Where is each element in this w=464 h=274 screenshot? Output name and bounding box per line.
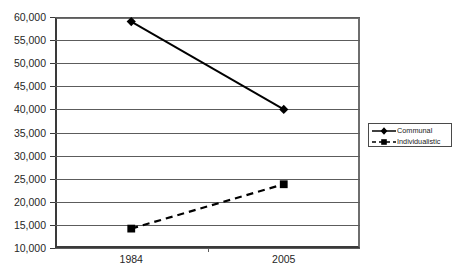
gridline <box>55 225 360 226</box>
chart-legend: Communal Individualistic <box>368 123 452 147</box>
y-axis-label: 40,000 <box>0 104 46 115</box>
gridline <box>55 202 360 203</box>
y-axis-label: 60,000 <box>0 12 46 23</box>
y-axis-tick <box>50 63 55 64</box>
legend-item-communal: Communal <box>371 126 451 136</box>
x-axis-label: 2005 <box>254 254 314 265</box>
y-axis-label: 30,000 <box>0 151 46 162</box>
y-axis-label: 35,000 <box>0 128 46 139</box>
diamond-marker-icon <box>371 126 397 136</box>
x-axis-label: 1984 <box>101 254 161 265</box>
y-axis-label: 55,000 <box>0 35 46 46</box>
gridline <box>55 17 360 18</box>
gridline <box>55 109 360 110</box>
y-axis-tick <box>50 109 55 110</box>
y-axis-tick <box>50 248 55 249</box>
y-axis-label: 10,000 <box>0 243 46 254</box>
legend-label-individualistic: Individualistic <box>397 138 440 146</box>
y-axis-label: 25,000 <box>0 174 46 185</box>
legend-item-individualistic: Individualistic <box>371 137 451 147</box>
legend-label-communal: Communal <box>397 127 432 135</box>
gridline <box>55 40 360 41</box>
y-axis-tick <box>50 40 55 41</box>
y-axis-label: 50,000 <box>0 58 46 69</box>
y-axis-tick <box>50 202 55 203</box>
y-axis-tick <box>50 133 55 134</box>
gridline <box>55 179 360 180</box>
gridline <box>55 86 360 87</box>
x-axis-tick <box>208 248 209 252</box>
y-axis-tick <box>50 179 55 180</box>
gridline <box>55 156 360 157</box>
y-axis-label: 15,000 <box>0 220 46 231</box>
y-axis-label: 20,000 <box>0 197 46 208</box>
chart-container: 60,00055,00050,00045,00040,00035,00030,0… <box>0 0 464 274</box>
gridline <box>55 133 360 134</box>
gridline <box>55 63 360 64</box>
y-axis-tick <box>50 86 55 87</box>
y-axis-label: 45,000 <box>0 81 46 92</box>
y-axis-tick <box>50 17 55 18</box>
y-axis-tick <box>50 225 55 226</box>
square-marker-icon <box>371 137 397 147</box>
y-axis-tick <box>50 156 55 157</box>
